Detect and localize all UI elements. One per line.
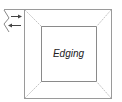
center-label: Edging	[41, 26, 96, 81]
squiggle-edge	[4, 10, 9, 32]
arrow-left-icon	[8, 24, 21, 28]
arrow-right-icon	[11, 15, 22, 19]
edging-label-text: Edging	[53, 48, 84, 59]
